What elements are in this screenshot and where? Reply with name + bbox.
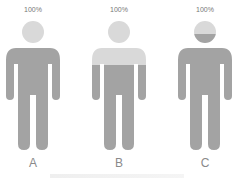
person-icon: [166, 0, 234, 160]
person-icon: [0, 0, 72, 160]
figure-label: C: [166, 156, 234, 170]
figure-c: 100% C: [166, 0, 234, 180]
person-icon: [80, 0, 158, 160]
caption-fragment: [50, 174, 184, 178]
figure-label: A: [0, 156, 72, 170]
figure-a: 100% A: [0, 0, 72, 180]
figure-b: 100% B: [80, 0, 158, 180]
figure-label: B: [80, 156, 158, 170]
